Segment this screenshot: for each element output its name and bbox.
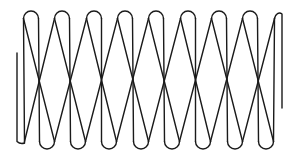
spring-right-end: [275, 13, 283, 108]
spring-top-loop: [181, 11, 196, 19]
spring-top-loop: [243, 11, 258, 19]
spring-coil-rise: [274, 19, 275, 142]
spring-bottom-loop: [165, 142, 180, 150]
spring-top-loop: [118, 11, 133, 19]
spring-top-loop: [55, 11, 70, 19]
spring-coil-rise: [24, 19, 25, 144]
spring-bottom-loop: [228, 142, 243, 150]
spring-top-loop: [212, 11, 227, 19]
spring-top-loop: [87, 11, 102, 19]
spring-bottom-loop: [40, 142, 55, 150]
spring-top-loop: [149, 11, 164, 19]
spring-bottom-loop: [71, 142, 86, 150]
spring-top-loop: [24, 11, 39, 19]
spring-bottom-loop: [259, 142, 274, 150]
coil-spring-drawing: [0, 0, 298, 161]
spring-diagram: [0, 0, 298, 161]
spring-bottom-loop: [134, 142, 149, 150]
spring-bottom-loop: [102, 142, 117, 150]
spring-bottom-loop: [196, 142, 211, 150]
